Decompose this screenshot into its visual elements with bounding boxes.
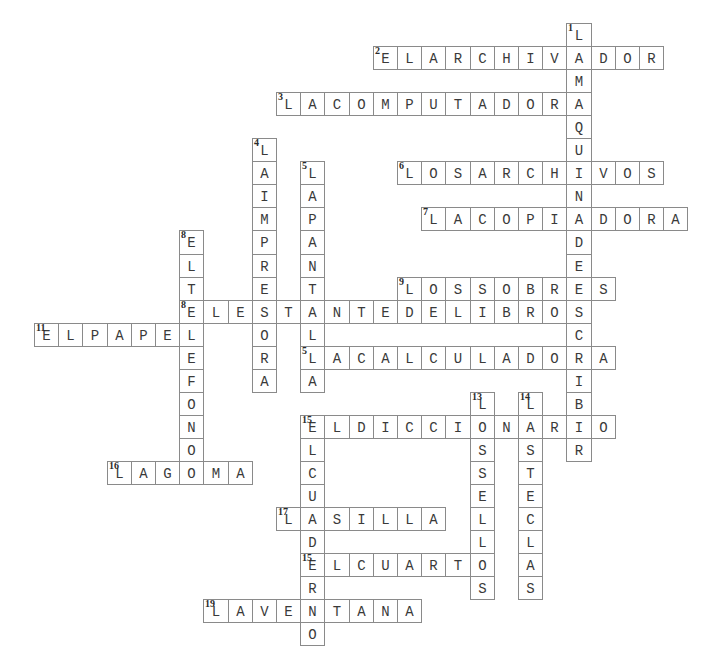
crossword-cell[interactable]: N bbox=[300, 599, 325, 623]
crossword-cell[interactable]: A bbox=[349, 599, 374, 623]
crossword-cell[interactable]: T bbox=[276, 300, 301, 324]
crossword-cell[interactable]: R bbox=[518, 300, 543, 324]
crossword-cell[interactable]: A bbox=[566, 46, 592, 70]
crossword-cell[interactable]: L bbox=[518, 530, 543, 554]
crossword-cell[interactable]: G bbox=[155, 461, 180, 485]
crossword-cell[interactable]: C bbox=[349, 346, 374, 370]
crossword-cell[interactable]: L bbox=[397, 346, 422, 370]
crossword-cell[interactable]: R bbox=[445, 46, 471, 70]
crossword-cell[interactable]: S bbox=[324, 507, 350, 531]
crossword-cell[interactable]: A bbox=[591, 346, 616, 370]
crossword-cell[interactable]: N bbox=[300, 254, 325, 278]
crossword-cell[interactable]: A bbox=[228, 599, 253, 623]
crossword-cell[interactable]: D bbox=[518, 346, 543, 370]
crossword-cell[interactable]: R bbox=[639, 207, 664, 231]
crossword-cell[interactable]: F bbox=[179, 369, 204, 393]
crossword-cell[interactable]: I bbox=[542, 207, 567, 231]
crossword-cell[interactable]: N bbox=[566, 184, 592, 208]
crossword-cell[interactable]: I bbox=[373, 415, 398, 439]
crossword-cell[interactable]: R bbox=[639, 46, 664, 70]
crossword-cell[interactable]: O bbox=[518, 92, 543, 116]
crossword-cell[interactable]: O bbox=[494, 207, 519, 231]
crossword-cell[interactable]: A bbox=[300, 230, 325, 255]
crossword-cell[interactable]: R bbox=[566, 438, 592, 462]
crossword-cell[interactable]: P bbox=[397, 92, 422, 116]
crossword-cell[interactable]: U bbox=[421, 92, 446, 116]
crossword-cell[interactable]: Q bbox=[566, 115, 592, 139]
crossword-cell[interactable]: L bbox=[179, 254, 204, 278]
crossword-cell[interactable]: T bbox=[349, 300, 374, 324]
crossword-cell[interactable]: A bbox=[252, 161, 277, 185]
crossword-cell[interactable]: A bbox=[397, 599, 422, 623]
crossword-cell[interactable]: E bbox=[566, 254, 592, 278]
crossword-cell[interactable]: A bbox=[421, 46, 446, 70]
crossword-cell[interactable]: D bbox=[566, 230, 592, 255]
crossword-cell[interactable]: R bbox=[542, 92, 567, 116]
crossword-cell[interactable]: L bbox=[470, 507, 495, 531]
crossword-cell[interactable]: A bbox=[300, 369, 325, 393]
crossword-cell[interactable]: E bbox=[276, 599, 301, 623]
crossword-cell[interactable]: B bbox=[566, 392, 592, 416]
crossword-cell[interactable]: C bbox=[421, 346, 446, 370]
crossword-cell[interactable]: C bbox=[470, 207, 495, 231]
crossword-cell[interactable]: A bbox=[470, 92, 495, 116]
crossword-cell[interactable]: O bbox=[179, 438, 204, 462]
crossword-cell[interactable]: 2E bbox=[373, 46, 398, 70]
crossword-cell[interactable]: 15E bbox=[300, 415, 325, 439]
crossword-cell[interactable]: O bbox=[494, 277, 519, 301]
crossword-cell[interactable]: A bbox=[300, 507, 325, 531]
crossword-cell[interactable]: D bbox=[591, 207, 616, 231]
crossword-cell[interactable]: A bbox=[518, 415, 543, 439]
crossword-cell[interactable]: 13L bbox=[470, 392, 495, 416]
crossword-cell[interactable]: L bbox=[179, 323, 204, 347]
crossword-cell[interactable]: A bbox=[228, 461, 253, 485]
crossword-cell[interactable]: O bbox=[421, 277, 446, 301]
crossword-cell[interactable]: A bbox=[470, 161, 495, 185]
crossword-cell[interactable]: C bbox=[470, 46, 495, 70]
crossword-cell[interactable]: A bbox=[566, 92, 592, 116]
crossword-cell[interactable]: T bbox=[445, 553, 471, 577]
crossword-cell[interactable]: T bbox=[445, 92, 471, 116]
crossword-cell[interactable]: O bbox=[470, 553, 495, 577]
crossword-cell[interactable]: 8E bbox=[179, 300, 204, 324]
crossword-cell[interactable]: A bbox=[107, 323, 132, 347]
crossword-cell[interactable]: 15E bbox=[300, 553, 325, 577]
crossword-cell[interactable]: O bbox=[591, 415, 616, 439]
crossword-cell[interactable]: H bbox=[542, 161, 567, 185]
crossword-cell[interactable]: U bbox=[566, 138, 592, 162]
crossword-cell[interactable]: 4L bbox=[252, 138, 277, 162]
crossword-cell[interactable]: S bbox=[518, 438, 543, 462]
crossword-cell[interactable]: P bbox=[82, 323, 108, 347]
crossword-cell[interactable]: L bbox=[58, 323, 83, 347]
crossword-cell[interactable]: L bbox=[203, 300, 229, 324]
crossword-cell[interactable]: 19L bbox=[203, 599, 229, 623]
crossword-cell[interactable]: L bbox=[397, 46, 422, 70]
crossword-cell[interactable]: M bbox=[252, 207, 277, 231]
crossword-cell[interactable]: 1L bbox=[566, 23, 592, 47]
crossword-cell[interactable]: R bbox=[494, 161, 519, 185]
crossword-cell[interactable]: N bbox=[324, 300, 350, 324]
crossword-cell[interactable]: R bbox=[421, 553, 446, 577]
crossword-cell[interactable]: S bbox=[252, 300, 277, 324]
crossword-cell[interactable]: L bbox=[324, 415, 350, 439]
crossword-cell[interactable]: S bbox=[591, 277, 616, 301]
crossword-cell[interactable]: P bbox=[300, 207, 325, 231]
crossword-cell[interactable]: L bbox=[397, 507, 422, 531]
crossword-cell[interactable]: E bbox=[421, 300, 446, 324]
crossword-cell[interactable]: 5L bbox=[300, 346, 325, 370]
crossword-cell[interactable]: I bbox=[518, 46, 543, 70]
crossword-cell[interactable]: A bbox=[663, 207, 688, 231]
crossword-cell[interactable]: O bbox=[179, 392, 204, 416]
crossword-cell[interactable]: R bbox=[252, 346, 277, 370]
crossword-cell[interactable]: O bbox=[179, 461, 204, 485]
crossword-cell[interactable]: I bbox=[445, 415, 471, 439]
crossword-cell[interactable]: D bbox=[591, 46, 616, 70]
crossword-cell[interactable]: B bbox=[494, 300, 519, 324]
crossword-cell[interactable]: D bbox=[349, 415, 374, 439]
crossword-cell[interactable]: L bbox=[324, 553, 350, 577]
crossword-cell[interactable]: M bbox=[203, 461, 229, 485]
crossword-cell[interactable]: H bbox=[494, 46, 519, 70]
crossword-cell[interactable]: L bbox=[470, 530, 495, 554]
crossword-cell[interactable]: L bbox=[300, 323, 325, 347]
crossword-cell[interactable]: 9L bbox=[397, 277, 422, 301]
